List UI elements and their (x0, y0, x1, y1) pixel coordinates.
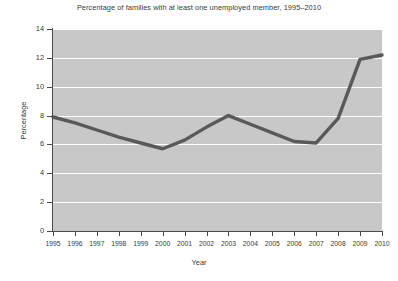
y-axis-line (52, 28, 53, 232)
y-tick-mark (47, 202, 52, 203)
y-tick-mark (47, 116, 52, 117)
y-tick-mark (47, 58, 52, 59)
y-tick-mark (47, 144, 52, 145)
y-axis-label: Percentage (19, 91, 28, 151)
x-axis-label: Year (0, 258, 398, 267)
x-tick-mark (228, 232, 229, 236)
x-tick-label: 2010 (367, 240, 397, 247)
plot-area (53, 29, 382, 231)
x-axis-line (52, 231, 383, 232)
x-tick-mark (382, 232, 383, 236)
x-tick-mark (97, 232, 98, 236)
x-tick-mark (360, 232, 361, 236)
x-tick-mark (185, 232, 186, 236)
x-tick-mark (272, 232, 273, 236)
x-tick-mark (250, 232, 251, 236)
x-tick-mark (75, 232, 76, 236)
chart-figure: Percentage of families with at least one… (0, 0, 398, 281)
y-tick-mark (47, 87, 52, 88)
y-tick-mark (47, 29, 52, 30)
y-tick-label: 12 (4, 53, 44, 62)
y-tick-mark (47, 173, 52, 174)
x-tick-mark (163, 232, 164, 236)
y-tick-label: 2 (4, 197, 44, 206)
y-tick-mark (47, 231, 52, 232)
y-tick-label: 0 (4, 226, 44, 235)
x-tick-mark (141, 232, 142, 236)
x-tick-mark (119, 232, 120, 236)
y-tick-label: 4 (4, 168, 44, 177)
series-polyline (53, 55, 382, 149)
x-tick-mark (207, 232, 208, 236)
x-tick-mark (294, 232, 295, 236)
x-tick-mark (338, 232, 339, 236)
chart-title: Percentage of families with at least one… (0, 3, 398, 12)
x-tick-mark (53, 232, 54, 236)
x-tick-mark (316, 232, 317, 236)
series-line-chart (53, 29, 382, 231)
y-tick-label: 10 (4, 82, 44, 91)
y-tick-label: 14 (4, 24, 44, 33)
